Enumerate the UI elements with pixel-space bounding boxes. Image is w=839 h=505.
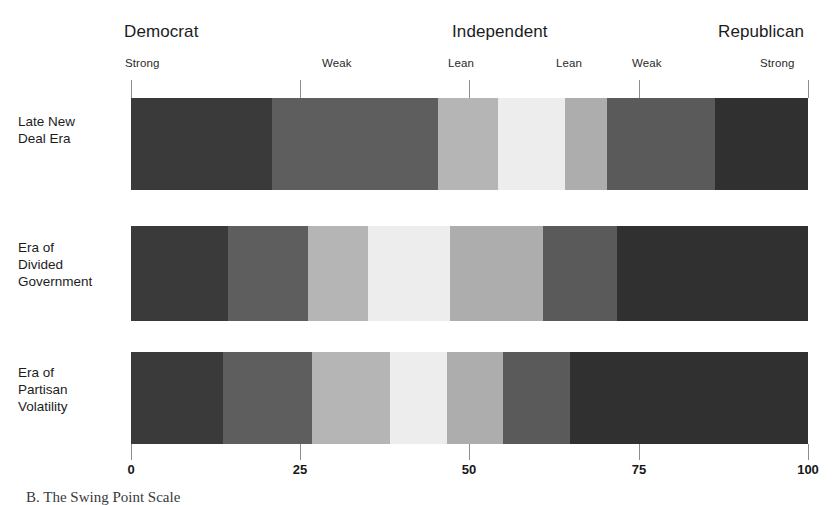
axis-number-50: 50 — [462, 462, 476, 477]
strength-label-weak-republican: Weak — [632, 57, 662, 69]
bar-row-era-of-partisan-volatility — [131, 352, 808, 444]
row-label-late-new-deal-era: Late New Deal Era — [18, 113, 123, 147]
strength-label-lean-democrat: Lean — [448, 57, 474, 69]
tick-bottom-0 — [131, 444, 132, 460]
tick-bottom-100 — [808, 444, 809, 460]
bar-segment — [228, 226, 308, 321]
bar-segment — [498, 98, 565, 190]
tick-top-25 — [300, 80, 301, 98]
axis-number-75: 75 — [632, 462, 646, 477]
tick-bottom-25 — [300, 444, 301, 460]
bar-segment — [131, 226, 228, 321]
axis-number-25: 25 — [293, 462, 307, 477]
bar-row-era-of-divided-government — [131, 226, 808, 321]
tick-top-50 — [469, 80, 470, 98]
bar-segment — [390, 352, 447, 444]
group-label-republican: Republican — [718, 22, 804, 42]
strength-label-strong-democrat: Strong — [125, 57, 159, 69]
bar-segment — [447, 352, 503, 444]
tick-top-0 — [131, 80, 132, 98]
group-label-independent: Independent — [452, 22, 548, 42]
bar-segment — [131, 352, 223, 444]
row-label-era-of-divided-government: Era of Divided Government — [18, 239, 126, 290]
bar-segment — [312, 352, 391, 444]
bar-segment — [570, 352, 808, 444]
tick-bottom-50 — [469, 444, 470, 460]
bar-segment — [450, 226, 543, 321]
bar-row-late-new-deal-era — [131, 98, 808, 190]
bar-segment — [438, 98, 498, 190]
tick-top-100 — [808, 80, 809, 98]
swing-point-scale-figure: Democrat Independent Republican Strong W… — [0, 0, 839, 505]
bar-segment — [543, 226, 617, 321]
strength-label-lean-republican: Lean — [556, 57, 582, 69]
bar-segment — [223, 352, 312, 444]
bar-segment — [368, 226, 450, 321]
strength-label-strong-republican: Strong — [760, 57, 794, 69]
bar-segment — [272, 98, 438, 190]
figure-caption: B. The Swing Point Scale — [26, 489, 180, 505]
bar-segment — [607, 98, 715, 190]
bar-segment — [565, 98, 607, 190]
bar-segment — [308, 226, 368, 321]
strength-label-weak-democrat: Weak — [322, 57, 352, 69]
axis-number-0: 0 — [127, 462, 134, 477]
row-label-era-of-partisan-volatility: Era of Partisan Volatility — [18, 364, 123, 415]
tick-top-75 — [639, 80, 640, 98]
bar-segment — [131, 98, 272, 190]
axis-number-100: 100 — [797, 462, 819, 477]
bar-segment — [715, 98, 808, 190]
group-label-democrat: Democrat — [124, 22, 199, 42]
bar-segment — [503, 352, 569, 444]
tick-bottom-75 — [639, 444, 640, 460]
bar-segment — [617, 226, 808, 321]
